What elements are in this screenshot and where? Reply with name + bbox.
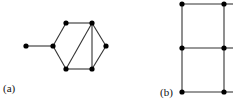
vertex-node: [63, 66, 68, 71]
edge: [66, 23, 92, 69]
vertex-node: [179, 89, 184, 94]
panel-b-grid-graph: [179, 1, 233, 94]
edge: [92, 46, 106, 69]
edge: [92, 23, 106, 46]
vertex-node: [179, 45, 184, 50]
vertex-node: [103, 43, 108, 48]
vertex-node: [221, 89, 226, 94]
vertex-node: [89, 66, 94, 71]
vertex-node: [221, 1, 226, 6]
panel-a-label: (a): [3, 82, 16, 95]
panel-a-graph: [23, 20, 108, 71]
vertex-node: [63, 20, 68, 25]
vertex-node: [23, 43, 28, 48]
edge: [53, 46, 66, 69]
vertex-node: [221, 45, 226, 50]
edge: [53, 23, 66, 46]
graph-diagram: (a) (b): [0, 0, 233, 103]
vertex-node: [50, 43, 55, 48]
vertex-node: [179, 1, 184, 6]
vertex-node: [89, 20, 94, 25]
panel-b-label: (b): [160, 86, 173, 99]
